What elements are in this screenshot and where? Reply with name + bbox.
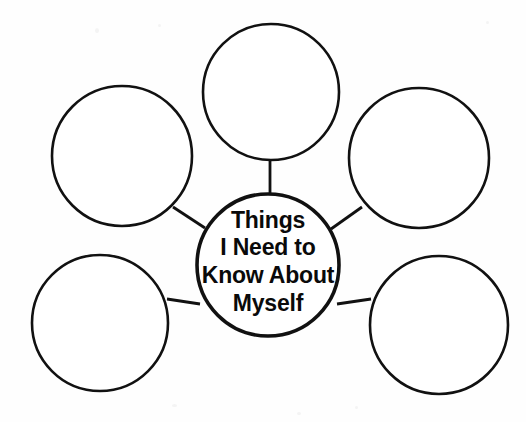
connector-upper-left: [173, 207, 205, 228]
connector-lower-left: [167, 299, 200, 304]
connector-upper-right: [331, 207, 362, 229]
center-bubble-line-3: Know About: [202, 262, 335, 288]
bubble-lower-left[interactable]: [32, 255, 168, 391]
worksheet-canvas: Things I Need to Know About Myself: [0, 0, 526, 422]
bubble-upper-right[interactable]: [349, 88, 489, 228]
bubble-upper-left[interactable]: [52, 86, 192, 226]
center-bubble-line-2: I Need to: [220, 234, 315, 260]
connector-lower-right: [337, 299, 371, 304]
bubble-map-diagram: Things I Need to Know About Myself: [0, 0, 526, 422]
center-bubble-line-4: Myself: [233, 290, 304, 316]
center-bubble-line-1: Things: [231, 207, 305, 233]
bubble-lower-right[interactable]: [370, 256, 508, 394]
bubble-top[interactable]: [203, 24, 339, 160]
